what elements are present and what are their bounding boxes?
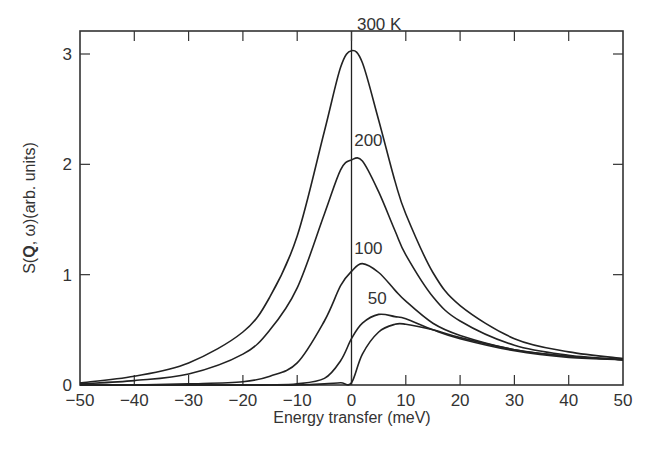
y-tick-label: 2 [63, 155, 72, 174]
x-tick-label: 30 [505, 391, 524, 410]
y-axis-ticks: 0123 [63, 45, 623, 395]
x-tick-label: 0 [347, 391, 356, 410]
x-tick-label: −30 [174, 391, 203, 410]
y-axis-title-prefix: S( [21, 257, 38, 274]
x-tick-label: 10 [396, 391, 415, 410]
curve-label: 50 [368, 289, 387, 308]
y-tick-label: 0 [63, 376, 72, 395]
x-tick-label: −20 [228, 391, 257, 410]
x-tick-label: −40 [120, 391, 149, 410]
x-axis-ticks: −50−40−30−20−1001020304050 [66, 31, 633, 410]
x-axis-title: Energy transfer (meV) [273, 409, 430, 426]
y-tick-label: 1 [63, 266, 72, 285]
y-tick-label: 3 [63, 45, 72, 64]
curve-label: 300 K [357, 15, 402, 34]
sqw-chart: −50−40−30−20−1001020304050 0123 300 K200… [0, 0, 657, 458]
x-tick-label: 20 [451, 391, 470, 410]
y-axis-title-suffix: , ω)(arb. units) [21, 142, 38, 245]
plot-frame [80, 31, 623, 385]
x-tick-label: 40 [559, 391, 578, 410]
curve-label: 200 [354, 131, 382, 150]
x-tick-label: −10 [283, 391, 312, 410]
y-axis-title: S(Q, ω)(arb. units) [21, 142, 38, 274]
x-tick-label: 50 [614, 391, 633, 410]
curve-label: 100 [354, 239, 382, 258]
y-axis-title-bold: Q [21, 245, 38, 257]
